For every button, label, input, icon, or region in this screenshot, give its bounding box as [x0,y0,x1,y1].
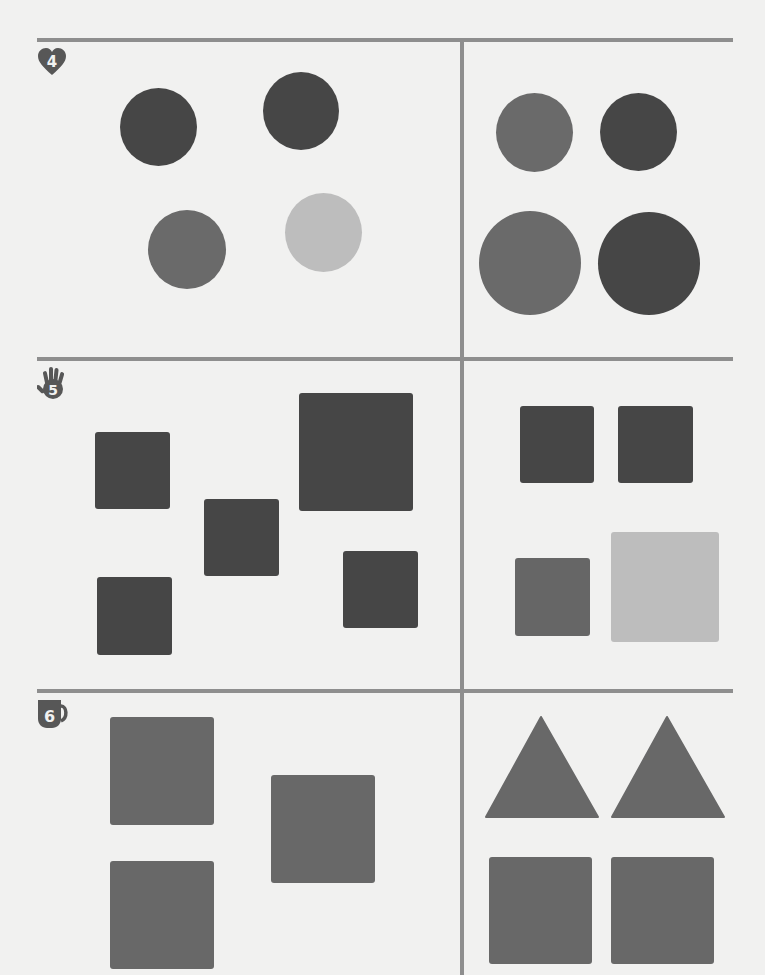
triangle-mid [610,715,726,819]
section-number: 6 [44,707,55,726]
square-dark [618,406,693,483]
circle-dark-large [598,212,700,315]
square-mid [110,861,214,969]
section-number: 4 [47,53,57,71]
square-mid [515,558,590,636]
square-mid [611,857,714,964]
section-divider-6 [37,689,733,693]
circle-mid [496,93,573,172]
section-number: 5 [48,382,58,398]
section-divider-4 [37,38,733,42]
column-divider [460,38,464,975]
square-dark-large [299,393,413,511]
square-mid [110,717,214,825]
square-light-large [611,532,719,642]
square-dark [97,577,172,655]
circle-dark [600,93,677,171]
circle-mid-large [479,211,581,315]
section-divider-5 [37,357,733,361]
square-dark [95,432,170,509]
circle-dark [120,88,197,166]
square-dark [520,406,594,483]
mug-icon: 6 [37,699,69,729]
square-mid [489,857,592,964]
heart-icon: 4 [37,47,67,77]
triangle-mid [484,715,600,819]
circle-dark [263,72,339,150]
circle-mid [148,210,226,289]
square-dark [343,551,418,628]
hand-icon: 5 [37,365,69,401]
square-mid [271,775,375,883]
section-6-mug-badge: 6 [37,699,69,729]
circle-light [285,193,362,272]
section-4-heart-badge: 4 [37,47,67,77]
square-dark [204,499,279,576]
section-5-hand-badge: 5 [37,365,69,401]
